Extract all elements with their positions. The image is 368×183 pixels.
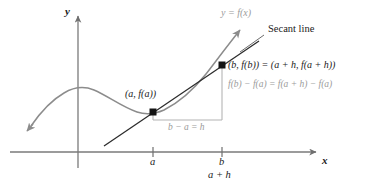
point-b-marker bbox=[219, 62, 226, 69]
curve-equation-label: y = f(x) bbox=[221, 8, 251, 18]
run-annotation: b − a = h bbox=[168, 123, 205, 133]
secant-line-label: Secant line bbox=[268, 24, 314, 35]
point-b-label: (b, f(b)) = (a + h, f(a + h)) bbox=[228, 60, 335, 70]
rise-annotation: f(b) − f(a) = f(a + h) − f(a) bbox=[228, 80, 332, 90]
figure-canvas: y x y = f(x) Secant line (a, f(a)) (b, f… bbox=[0, 0, 368, 183]
y-axis-label: y bbox=[65, 6, 70, 17]
point-a-label: (a, f(a)) bbox=[125, 89, 156, 99]
function-curve bbox=[31, 30, 240, 126]
secant-label-leader bbox=[240, 35, 264, 52]
tick-label-b-alt: a + h bbox=[208, 170, 231, 181]
x-axis-label: x bbox=[322, 155, 328, 166]
point-a-marker bbox=[150, 109, 157, 116]
tick-label-b: b bbox=[219, 157, 224, 168]
function-curve-group bbox=[27, 30, 240, 131]
curve-left-arrow bbox=[27, 124, 33, 131]
axes-group bbox=[10, 16, 316, 168]
tick-label-a: a bbox=[150, 157, 155, 168]
